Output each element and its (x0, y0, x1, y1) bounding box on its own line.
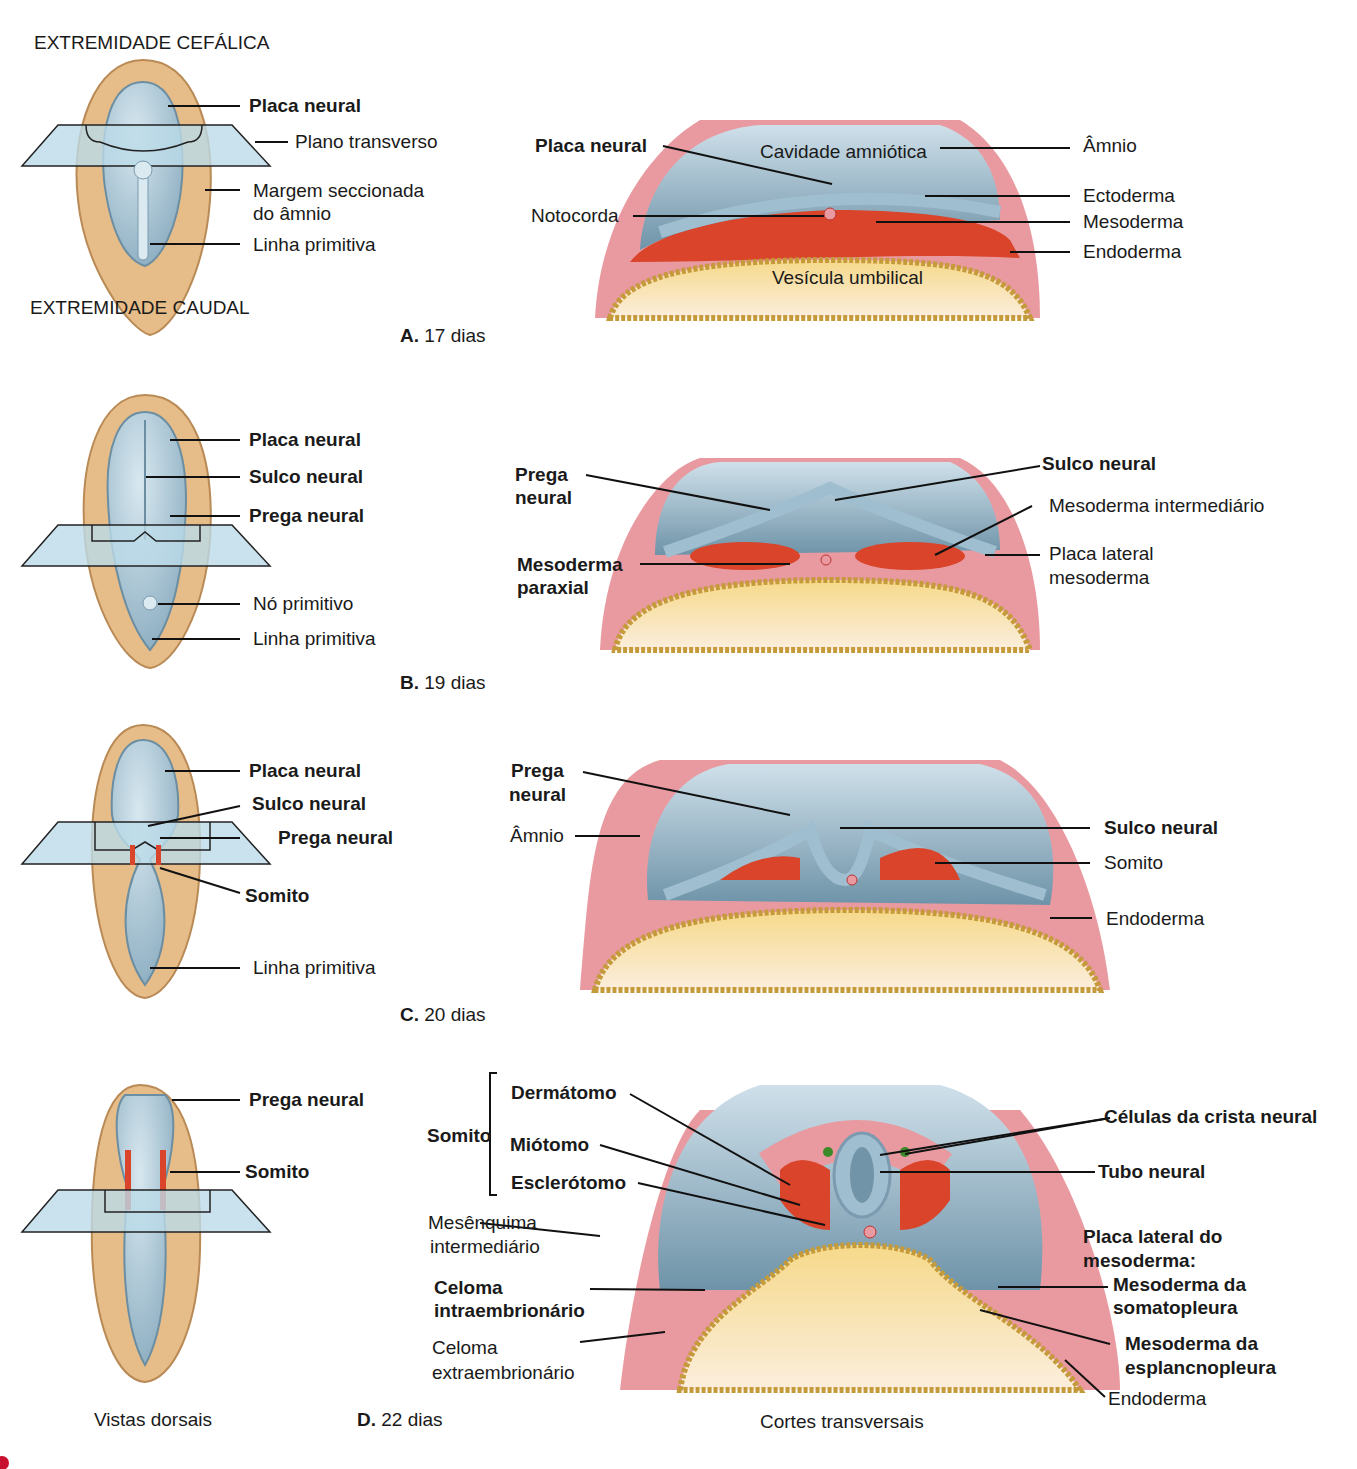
a-section-label-notochord: Notocorda (531, 205, 619, 227)
c-dorsal-label-neural-groove: Sulco neural (252, 793, 366, 815)
a-dorsal-label-neural-plate: Placa neural (249, 95, 361, 117)
b-section-label-lateral-plate: Placa lateral (1049, 543, 1154, 565)
c-section-label-amnion: Âmnio (510, 825, 564, 847)
b-dorsal-label-neural-fold: Prega neural (249, 505, 364, 527)
c-section-label-somite: Somito (1104, 852, 1163, 874)
d-section-label-endoderm: Endoderma (1108, 1388, 1206, 1410)
transverse-section-d (480, 1073, 1120, 1397)
b-section-label-lateral-plate-2: mesoderma (1049, 567, 1149, 589)
b-section-label-neural-groove: Sulco neural (1042, 453, 1156, 475)
c-section-label-neural-fold: Prega (511, 760, 564, 782)
d-section-label-somatopleure: Mesoderma da (1113, 1274, 1246, 1296)
d-section-label-intermediate-mesenchyme: Mesênquima (428, 1212, 537, 1234)
a-section-label-ectoderm: Ectoderma (1083, 185, 1175, 207)
cephalic-end-label: EXTREMIDADE CEFÁLICA (34, 32, 269, 54)
caption-a: A. 17 dias (400, 325, 486, 347)
b-dorsal-label-primitive-streak: Linha primitiva (253, 628, 376, 650)
transverse-section-b (586, 458, 1040, 650)
a-dorsal-label-amnion-margin-2: do âmnio (253, 203, 331, 225)
d-section-label-dermatome: Dermátomo (511, 1082, 617, 1104)
d-section-label-splanchnopleure: Mesoderma da (1125, 1333, 1258, 1355)
c-section-label-neural-groove: Sulco neural (1104, 817, 1218, 839)
d-section-label-lateral-plate-2: mesoderma: (1083, 1250, 1196, 1272)
c-dorsal-label-somite: Somito (245, 885, 309, 907)
d-section-label-lateral-plate: Placa lateral do (1083, 1226, 1222, 1248)
d-section-label-neural-crest-cells: Células da crista neural (1104, 1106, 1317, 1128)
dorsal-view-c (22, 725, 270, 998)
d-section-label-neural-tube: Tubo neural (1098, 1161, 1205, 1183)
a-section-label-mesoderm: Mesoderma (1083, 211, 1183, 233)
a-dorsal-label-transverse-plane: Plano transverso (295, 131, 438, 153)
d-section-label-myotome: Miótomo (510, 1134, 589, 1156)
d-section-label-somatopleure-2: somatopleura (1113, 1297, 1238, 1319)
footer-dorsal-views: Vistas dorsais (94, 1409, 212, 1431)
caudal-end-label: EXTREMIDADE CAUDAL (30, 297, 250, 319)
b-section-label-intermediate-mesoderm: Mesoderma intermediário (1049, 495, 1264, 517)
a-section-label-amnion: Âmnio (1083, 135, 1137, 157)
d-section-label-splanchnopleure-2: esplancnopleura (1125, 1357, 1276, 1379)
c-dorsal-label-neural-fold: Prega neural (278, 827, 393, 849)
chapter-marker-icon (0, 1456, 9, 1469)
a-section-label-neural-plate: Placa neural (535, 135, 647, 157)
d-section-label-sclerotome: Esclerótomo (511, 1172, 626, 1194)
caption-b: B. 19 dias (400, 672, 486, 694)
d-section-label-somite: Somito (427, 1125, 491, 1147)
a-section-label-yolk-sac: Vesícula umbilical (772, 267, 923, 289)
c-section-label-endoderm: Endoderma (1106, 908, 1204, 930)
d-section-label-intermediate-mesenchyme-2: intermediário (430, 1236, 540, 1258)
caption-c: C. 20 dias (400, 1004, 486, 1026)
c-dorsal-label-primitive-streak: Linha primitiva (253, 957, 376, 979)
a-section-label-amniotic-cavity: Cavidade amniótica (760, 141, 927, 163)
b-dorsal-label-primitive-node: Nó primitivo (253, 593, 353, 615)
d-dorsal-label-somite: Somito (245, 1161, 309, 1183)
a-section-label-endoderm: Endoderma (1083, 241, 1181, 263)
d-section-label-extraembryonic-coelom: Celoma (432, 1337, 497, 1359)
b-dorsal-label-neural-plate: Placa neural (249, 429, 361, 451)
dorsal-view-d (22, 1085, 270, 1382)
b-section-label-neural-fold-2: neural (515, 487, 572, 509)
footer-transverse-sections: Cortes transversais (760, 1411, 924, 1433)
d-section-label-intraembryonic-coelom-2: intraembrionário (434, 1300, 585, 1322)
caption-d: D. 22 dias (357, 1409, 443, 1431)
c-section-label-neural-fold-2: neural (509, 784, 566, 806)
transverse-section-c (575, 760, 1110, 990)
dorsal-view-b (22, 395, 270, 668)
a-dorsal-label-primitive-streak: Linha primitiva (253, 234, 376, 256)
d-section-label-intraembryonic-coelom: Celoma (434, 1277, 503, 1299)
d-dorsal-label-neural-fold: Prega neural (249, 1089, 364, 1111)
a-dorsal-label-amnion-margin: Margem seccionada (253, 180, 424, 202)
d-section-label-extraembryonic-coelom-2: extraembrionário (432, 1362, 575, 1384)
b-dorsal-label-neural-groove: Sulco neural (249, 466, 363, 488)
b-section-label-paraxial-mesoderm-2: paraxial (517, 577, 589, 599)
c-dorsal-label-neural-plate: Placa neural (249, 760, 361, 782)
b-section-label-paraxial-mesoderm: Mesoderma (517, 554, 623, 576)
b-section-label-neural-fold: Prega (515, 464, 568, 486)
